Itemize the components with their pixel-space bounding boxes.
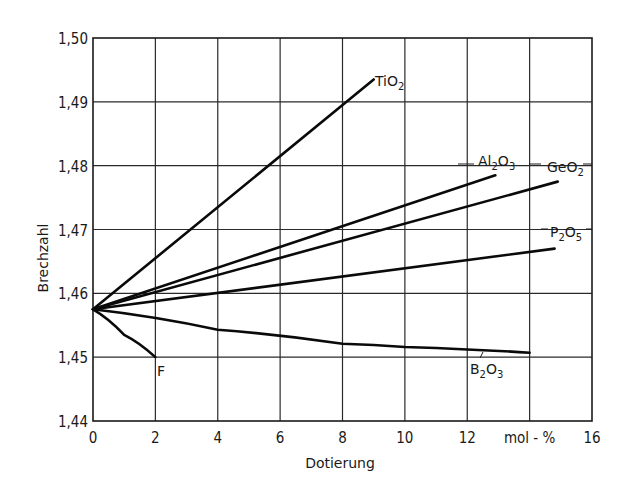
x-tick-label: 8 <box>338 429 347 447</box>
series-line-tio2 <box>93 79 374 309</box>
x-tick-label: 6 <box>276 429 285 447</box>
series-label-geo2: GeO2 <box>547 159 584 178</box>
series-label-b2o3: B2O3 <box>470 361 503 380</box>
x-tick-label: 0 <box>89 429 98 447</box>
x-axis-title: Dotierung <box>305 455 375 471</box>
x-tick-label: 10 <box>396 429 413 447</box>
series-line-b2o3 <box>93 309 530 352</box>
x-tick-label: 16 <box>583 429 600 447</box>
series-label-p2o5: P2O5 <box>550 224 582 243</box>
y-tick-label: 1,47 <box>58 222 88 240</box>
y-tick-label: 1,46 <box>58 285 88 303</box>
series-label-al2o3: Al2O3 <box>478 153 515 172</box>
series-label-f: F <box>157 363 165 379</box>
x-tick-label: 2 <box>151 429 160 447</box>
y-tick-label: 1,45 <box>58 349 88 367</box>
series-lines <box>93 79 558 357</box>
series-line-geo2 <box>93 182 558 310</box>
series-line-p2o5 <box>93 249 555 310</box>
x-tick-label: mol - % <box>504 429 556 447</box>
series-labels: TiO2Al2O3GeO2P2O5B2O3F <box>157 73 592 380</box>
y-tick-label: 1,49 <box>58 94 88 112</box>
x-tick-label: 4 <box>213 429 222 447</box>
x-axis-ticks: 024681012mol - %16 <box>89 429 601 447</box>
y-tick-label: 1,48 <box>58 158 88 176</box>
x-tick-label: 12 <box>459 429 476 447</box>
y-axis-ticks: 1,441,451,461,471,481,491,50 <box>58 30 88 431</box>
y-tick-label: 1,50 <box>58 30 88 48</box>
y-axis-title: Brechzahl <box>35 224 51 293</box>
refractive-index-chart: 1,441,451,461,471,481,491,50 024681012mo… <box>0 0 628 492</box>
series-line-al2o3 <box>93 175 495 309</box>
series-label-tio2: TiO2 <box>374 73 404 92</box>
y-tick-label: 1,44 <box>58 413 88 431</box>
grid <box>93 38 592 421</box>
